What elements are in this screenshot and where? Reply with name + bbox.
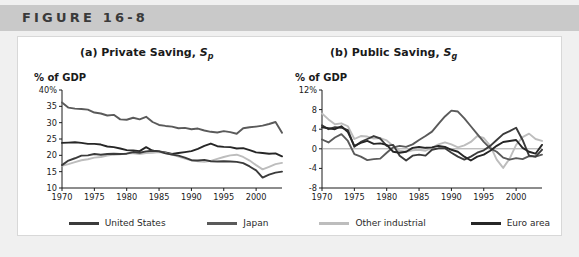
chart-b-title: (b) Public Saving, Sg — [330, 46, 457, 61]
chart-b-title-text: (b) Public Saving, — [330, 46, 440, 59]
figure-frame: FIGURE 16-8 (a) Private Saving, Sp (b) P… — [0, 0, 579, 257]
figure-number-label: FIGURE 16-8 — [22, 10, 148, 25]
private-saving-xtick: 1980 — [116, 192, 137, 202]
private-saving-series-united-states — [62, 151, 282, 178]
private-saving-axes — [62, 90, 282, 188]
private-saving-ytick: 30 — [47, 118, 57, 128]
chart-a-title: (a) Private Saving, Sp — [80, 46, 213, 61]
private-saving-ytick: 20 — [47, 150, 57, 160]
public-saving-xtick: 1980 — [376, 192, 397, 202]
legend-item-other-industrial: Other industrial — [319, 218, 425, 228]
legend-item-united-states: United States — [69, 218, 166, 228]
private-saving-series-japan — [62, 102, 282, 133]
public-saving-ytick: 4 — [312, 124, 317, 134]
public-saving-xtick: 1975 — [344, 192, 365, 202]
public-saving-svg: -8-404812%1970197519801985199019952000 — [296, 86, 546, 204]
legend-label-japan: Japan — [243, 218, 268, 228]
chart-b-plot: -8-404812%1970197519801985199019952000 — [296, 86, 546, 204]
legend-label-other-industrial: Other industrial — [355, 218, 425, 228]
chart-b-title-subscript: g — [451, 52, 457, 61]
public-saving-series-japan — [322, 111, 542, 160]
private-saving-xtick: 1985 — [149, 192, 170, 202]
public-saving-xtick: 2000 — [506, 192, 527, 202]
public-saving-ytick: 0 — [312, 144, 317, 154]
public-saving-xtick: 1990 — [441, 192, 462, 202]
legend-swatch-other-industrial — [319, 222, 349, 225]
public-saving-ytick: 8 — [312, 105, 317, 115]
chart-a-plot: 10152025303540%1970197519801985199019952… — [36, 86, 286, 204]
public-saving-ytick: 12% — [299, 85, 317, 95]
chart-a-title-symbol: S — [200, 46, 208, 59]
private-saving-xtick: 1990 — [181, 192, 202, 202]
legend-swatch-euro-area — [471, 222, 501, 225]
legend-item-euro-area: Euro area — [471, 218, 550, 228]
private-saving-ytick: 25 — [47, 134, 57, 144]
chart-a-title-text: (a) Private Saving, — [80, 46, 196, 59]
legend-swatch-japan — [207, 222, 237, 225]
legend-label-euro-area: Euro area — [507, 218, 550, 228]
chart-a-title-subscript: p — [208, 52, 214, 61]
private-saving-xtick: 1970 — [52, 192, 73, 202]
private-saving-xtick: 1995 — [213, 192, 234, 202]
public-saving-xtick: 1970 — [312, 192, 333, 202]
private-saving-xtick: 2000 — [246, 192, 267, 202]
private-saving-xtick: 1975 — [84, 192, 105, 202]
public-saving-xtick: 1995 — [473, 192, 494, 202]
private-saving-ytick: 15 — [47, 167, 57, 177]
legend-swatch-united-states — [69, 222, 99, 225]
private-saving-ytick: 35 — [47, 101, 57, 111]
chart-legend: United States Japan Other industrial Eur… — [30, 214, 550, 232]
chart-b-y-axis-label: % of GDP — [295, 72, 347, 83]
chart-a-y-axis-label: % of GDP — [34, 72, 86, 83]
private-saving-ytick: 40% — [39, 85, 57, 95]
legend-label-united-states: United States — [105, 218, 166, 228]
public-saving-xtick: 1985 — [409, 192, 430, 202]
public-saving-ytick: -4 — [309, 163, 317, 173]
legend-item-japan: Japan — [207, 218, 268, 228]
private-saving-svg: 10152025303540%1970197519801985199019952… — [36, 86, 286, 204]
